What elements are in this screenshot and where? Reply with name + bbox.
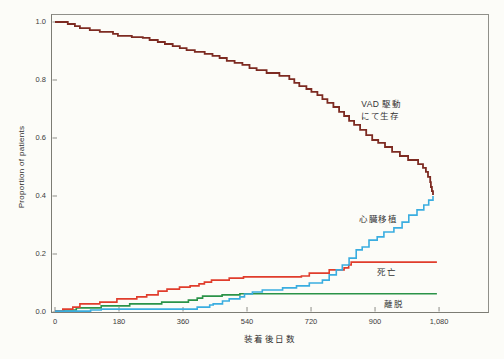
survival-chart: Proportion of patients 装着後日数 VAD 駆動 にて生存… <box>0 0 504 359</box>
y-tick-label: 0.4 <box>16 191 46 200</box>
heart-transplant-label: 心臓移植 <box>359 214 397 226</box>
x-tick-label: 1,080 <box>419 317 459 326</box>
x-tick-label: 900 <box>355 317 395 326</box>
x-tick-label: 720 <box>291 317 331 326</box>
survival-curves-plot <box>52 15 488 312</box>
death-label: 死亡 <box>377 267 396 279</box>
y-tick-label: 0.0 <box>16 307 46 316</box>
weaning-label: 離脱 <box>384 299 403 311</box>
x-tick-label: 180 <box>99 317 139 326</box>
plot-frame: VAD 駆動 にて生存心臓移植死亡離脱 <box>51 14 489 313</box>
x-tick-label: 540 <box>227 317 267 326</box>
y-tick-label: 0.6 <box>16 133 46 142</box>
x-axis-title: 装着後日数 <box>244 332 297 344</box>
x-tick-label: 360 <box>163 317 203 326</box>
y-tick-label: 0.8 <box>16 75 46 84</box>
y-tick-label: 1.0 <box>16 17 46 26</box>
vad-survival-label: VAD 駆動 にて生存 <box>361 99 401 122</box>
x-tick-label: 0 <box>35 317 75 326</box>
y-tick-label: 0.2 <box>16 249 46 258</box>
